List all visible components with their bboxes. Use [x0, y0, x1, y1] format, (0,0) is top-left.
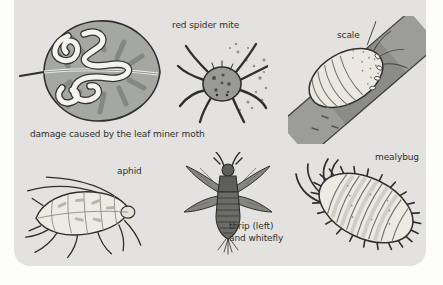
figure-mealybug [294, 156, 436, 258]
mealybug-illustration [294, 156, 436, 258]
figure-scale [288, 16, 426, 144]
caption-red-spider-mite: red spider mite [172, 19, 239, 31]
caption-leaf-miner-damage: damage caused by the leaf miner moth [30, 128, 205, 140]
caption-thrip-whitefly-line1: thrip (left) [229, 220, 283, 232]
red-spider-mite-illustration [176, 34, 268, 128]
caption-thrip-whitefly: thrip (left) and whitefly [229, 220, 283, 244]
figure-red-spider-mite [176, 34, 268, 128]
leaf-miner-damage-illustration [14, 10, 166, 128]
figure-leaf-miner-damage [14, 10, 166, 128]
illustration-page: damage caused by the leaf miner moth red… [0, 0, 443, 285]
figure-aphid [20, 170, 148, 258]
scale-insect-illustration [288, 16, 426, 144]
caption-thrip-whitefly-line2: and whitefly [229, 232, 283, 244]
aphid-illustration [20, 170, 148, 258]
